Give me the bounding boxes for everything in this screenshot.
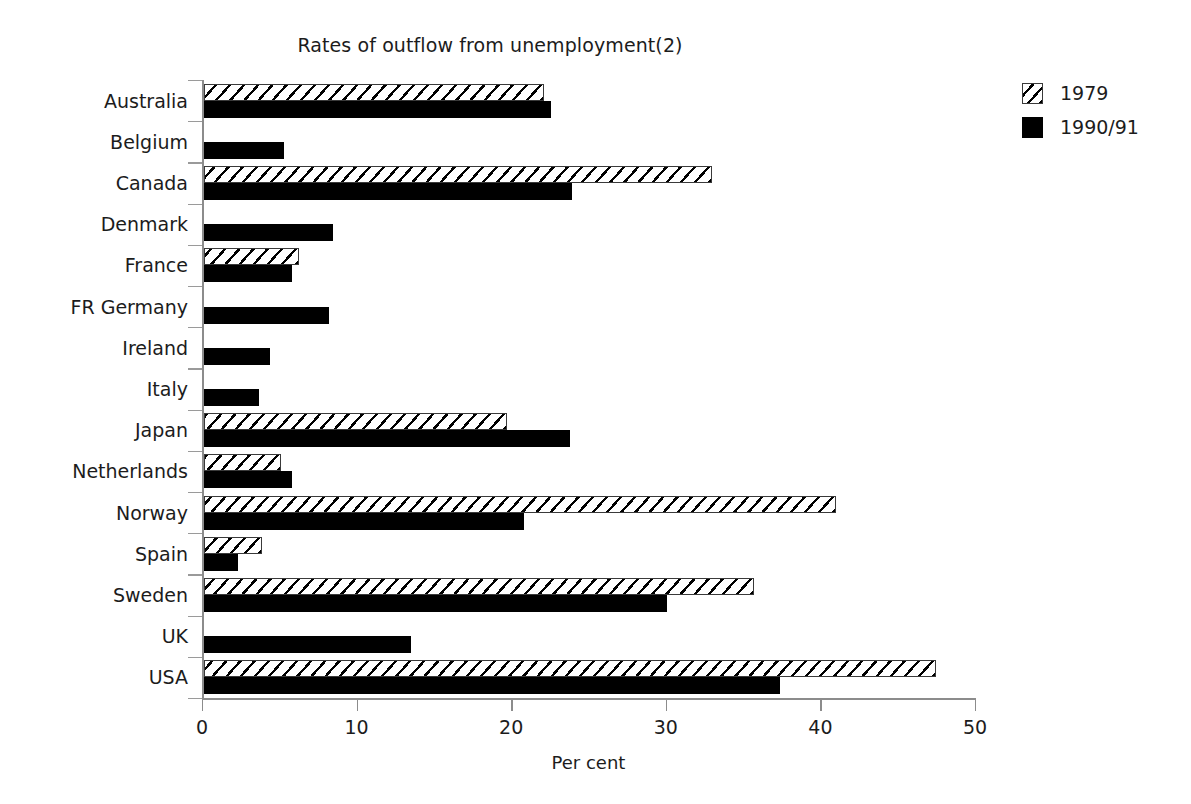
y-axis-tick [188, 533, 202, 534]
y-axis-category-label: USA [0, 666, 188, 688]
bar-1990-91 [204, 513, 524, 530]
plot-area: 01020304050 Per cent [202, 80, 975, 698]
y-axis-tick [188, 286, 202, 287]
x-axis-tick [202, 698, 203, 711]
y-axis-category-label: Sweden [0, 584, 188, 606]
chart-legend: 19791990/91 [1022, 76, 1182, 144]
bar-1990-91 [204, 636, 411, 653]
bar-1979 [204, 84, 544, 101]
bar-1990-91 [204, 307, 329, 324]
bar-1990-91 [204, 183, 572, 200]
y-axis-tick [188, 657, 202, 658]
y-axis-tick [188, 162, 202, 163]
legend-item: 1979 [1022, 76, 1182, 110]
bar-1979 [204, 454, 281, 471]
solid-square-icon [1022, 117, 1043, 138]
y-axis-category-label: Belgium [0, 131, 188, 153]
y-axis-category-label: FR Germany [0, 296, 188, 318]
x-axis-tick [666, 698, 667, 711]
y-axis-tick [188, 327, 202, 328]
y-axis-category-label: UK [0, 625, 188, 647]
x-axis-tick-label: 40 [808, 716, 832, 738]
x-axis-tick-label: 0 [196, 716, 208, 738]
y-axis-category-label: Netherlands [0, 460, 188, 482]
y-axis-category-label: Spain [0, 543, 188, 565]
bar-1990-91 [204, 265, 292, 282]
y-axis-tick [188, 121, 202, 122]
bar-1990-91 [204, 142, 284, 159]
x-axis-tick-label: 50 [963, 716, 987, 738]
bar-1990-91 [204, 677, 781, 694]
y-axis-tick [188, 451, 202, 452]
bar-1979 [204, 537, 263, 554]
y-axis-category-label: Norway [0, 502, 188, 524]
x-axis-tick-label: 30 [654, 716, 678, 738]
y-axis-tick [188, 245, 202, 246]
x-axis-label: Per cent [202, 752, 975, 773]
x-axis-tick [975, 698, 976, 711]
bar-1979 [204, 166, 713, 183]
bar-1979 [204, 496, 836, 513]
bar-1990-91 [204, 595, 668, 612]
x-axis-line [202, 698, 975, 700]
x-axis-tick-label: 10 [345, 716, 369, 738]
y-axis-tick [188, 368, 202, 369]
bar-1979 [204, 248, 300, 265]
x-axis-tick [357, 698, 358, 711]
bar-1990-91 [204, 101, 552, 118]
y-axis-tick [188, 616, 202, 617]
x-axis-tick [820, 698, 821, 711]
y-axis-tick [188, 80, 202, 81]
y-axis-tick [188, 574, 202, 575]
y-axis-tick [188, 204, 202, 205]
hatched-square-icon [1022, 83, 1043, 104]
bar-1990-91 [204, 554, 238, 571]
bar-1979 [204, 413, 507, 430]
y-axis-tick [188, 410, 202, 411]
chart-container: Rates of outflow from unemployment(2) 01… [0, 0, 1191, 804]
legend-item-label: 1990/91 [1060, 116, 1139, 138]
y-axis-category-label: Denmark [0, 213, 188, 235]
y-axis-category-label: Ireland [0, 337, 188, 359]
legend-item-label: 1979 [1060, 82, 1108, 104]
x-axis-tick [511, 698, 512, 711]
bar-1990-91 [204, 348, 270, 365]
y-axis-category-label: Italy [0, 378, 188, 400]
bar-1979 [204, 660, 937, 677]
y-axis-category-label: Australia [0, 90, 188, 112]
y-axis-tick [188, 492, 202, 493]
bar-1990-91 [204, 389, 260, 406]
bar-1990-91 [204, 430, 570, 447]
legend-item: 1990/91 [1022, 110, 1182, 144]
y-axis-tick [188, 698, 202, 699]
y-axis-category-label: France [0, 254, 188, 276]
y-axis-category-label: Japan [0, 419, 188, 441]
bar-1979 [204, 578, 754, 595]
chart-title: Rates of outflow from unemployment(2) [0, 34, 980, 56]
y-axis-category-label: Canada [0, 172, 188, 194]
bar-1990-91 [204, 224, 334, 241]
bar-1990-91 [204, 471, 292, 488]
x-axis-tick-label: 20 [499, 716, 523, 738]
